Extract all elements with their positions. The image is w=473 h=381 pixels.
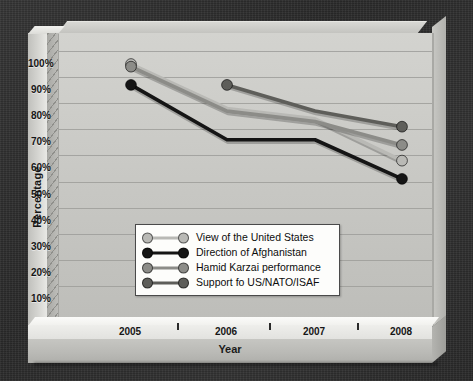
legend-marker-dot [178,232,189,243]
legend-swatch [142,262,189,274]
legend-item[interactable]: Hamid Karzai performance [142,260,332,275]
base-plinth: Year [28,339,432,363]
legend-marker-dot [178,262,189,273]
legend-item-label: Support fo US/NATO/ISAF [196,277,319,288]
chart-legend: View of the United StatesDirection of Af… [135,224,340,296]
x-axis-tick-label: 2006 [215,326,237,337]
series-endpoint-marker [222,80,233,91]
series-endpoint-marker [126,61,137,72]
series-line [131,64,402,161]
legend-swatch [142,247,189,259]
series-endpoint-marker [397,121,408,132]
legend-item-label: Hamid Karzai performance [196,262,321,273]
y-axis-tick-label: 80% [31,110,51,121]
legend-item[interactable]: Support fo US/NATO/ISAF [142,275,332,290]
y-axis-tick-label: 30% [31,240,51,251]
legend-marker-dot [142,277,153,288]
x-axis-minor-tick [269,323,271,330]
legend-marker-dot [142,262,153,273]
legend-item-label: Direction of Afghanistan [196,247,307,258]
chart-right-bevel [432,16,446,327]
base-shadow [34,362,438,366]
floor-front: 2005200620072008 [28,325,432,340]
y-axis-tick-label: 100% [28,58,54,69]
legend-marker-dot [142,247,153,258]
y-axis-tick-label: 20% [31,266,51,277]
chart-3d-container: 0%10%20%30%40%50%60%70%80%90%100% Percen… [28,21,446,364]
legend-item[interactable]: View of the United States [142,230,332,245]
legend-marker-dot [178,247,189,258]
y-axis-tick-label: 10% [31,292,51,303]
x-axis-minor-tick [177,323,179,330]
series-endpoint-marker [397,140,408,151]
x-axis-minor-tick [357,323,359,330]
series-line [131,67,402,145]
y-axis-tick-label: 70% [31,136,51,147]
x-axis-tick-label: 2007 [303,326,325,337]
series-endpoint-marker [397,173,408,184]
y-axis-title: Percentage [31,166,43,227]
series-endpoint-marker [126,80,137,91]
legend-marker-dot [142,232,153,243]
legend-marker-dot [178,277,189,288]
x-axis-tick-label: 2008 [390,326,412,337]
legend-item[interactable]: Direction of Afghanistan [142,245,332,260]
series-endpoint-marker [397,155,408,166]
legend-swatch [142,232,189,244]
legend-swatch [142,277,189,289]
x-axis-tick-label: 2005 [119,326,141,337]
x-axis-title: Year [28,343,432,355]
y-axis-tick-label: 90% [31,84,51,95]
legend-item-label: View of the United States [196,232,314,243]
